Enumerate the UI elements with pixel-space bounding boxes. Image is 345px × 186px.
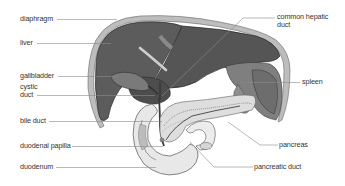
label-cystic-duct-line2: duct xyxy=(20,91,33,99)
organ-illustration xyxy=(0,0,345,186)
label-spleen: spleen xyxy=(302,78,323,86)
label-pancreatic-duct: pancreatic duct xyxy=(254,163,301,171)
duodenal-papilla-shape xyxy=(160,138,164,142)
label-liver: liver xyxy=(20,39,33,47)
label-pancreas: pancreas xyxy=(279,141,308,149)
label-gallbladder: gallbladder xyxy=(20,72,54,80)
label-bile-duct: bile duct xyxy=(20,117,46,125)
label-duodenal-papilla: duodenal papilla xyxy=(20,142,71,150)
label-duodenum: duodenum xyxy=(20,163,53,171)
label-common-hepatic-duct-line2: duct xyxy=(277,21,290,29)
anatomy-diagram: diaphragm liver gallbladder cystic duct … xyxy=(0,0,345,186)
label-diaphragm: diaphragm xyxy=(20,15,53,23)
